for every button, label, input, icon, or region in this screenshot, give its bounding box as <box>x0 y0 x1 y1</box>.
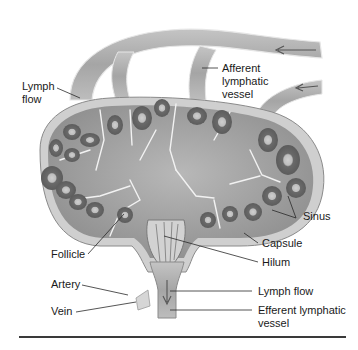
follicle <box>262 186 282 206</box>
follicle <box>80 133 100 147</box>
follicle <box>286 178 306 198</box>
follicle <box>107 115 123 135</box>
label-lymph-flow-bottom: Lymph flow <box>258 285 313 298</box>
follicle <box>63 124 81 140</box>
follicle <box>49 139 63 157</box>
label-vein: Vein <box>51 305 72 318</box>
label-efferent-lymphatic-vessel: Efferent lymphatic vessel <box>258 304 346 330</box>
label-follicle: Follicle <box>51 248 85 261</box>
label-sinus: Sinus <box>303 210 331 223</box>
follicle <box>258 128 278 152</box>
label-afferent-lymphatic-vessel: Afferent lymphatic vessel <box>222 62 268 101</box>
follicle <box>132 106 152 130</box>
follicle <box>276 145 300 175</box>
follicle <box>187 107 207 125</box>
artery-vein-stub <box>136 290 150 310</box>
follicle <box>117 207 133 223</box>
label-capsule: Capsule <box>262 237 302 250</box>
bottom-rule <box>19 336 346 338</box>
label-artery: Artery <box>51 278 80 291</box>
follicle <box>64 148 80 162</box>
follicle <box>69 194 87 210</box>
follicle <box>222 206 238 222</box>
follicle <box>212 110 232 134</box>
follicle <box>244 203 262 221</box>
afferent-vessel-branch-2 <box>189 46 216 100</box>
follicle <box>200 212 216 228</box>
follicle <box>86 202 104 218</box>
label-hilum: Hilum <box>262 256 290 269</box>
label-lymph-flow-top: Lymph flow <box>22 80 55 106</box>
follicle <box>154 99 170 117</box>
afferent-vessel-branch-1 <box>112 52 134 100</box>
